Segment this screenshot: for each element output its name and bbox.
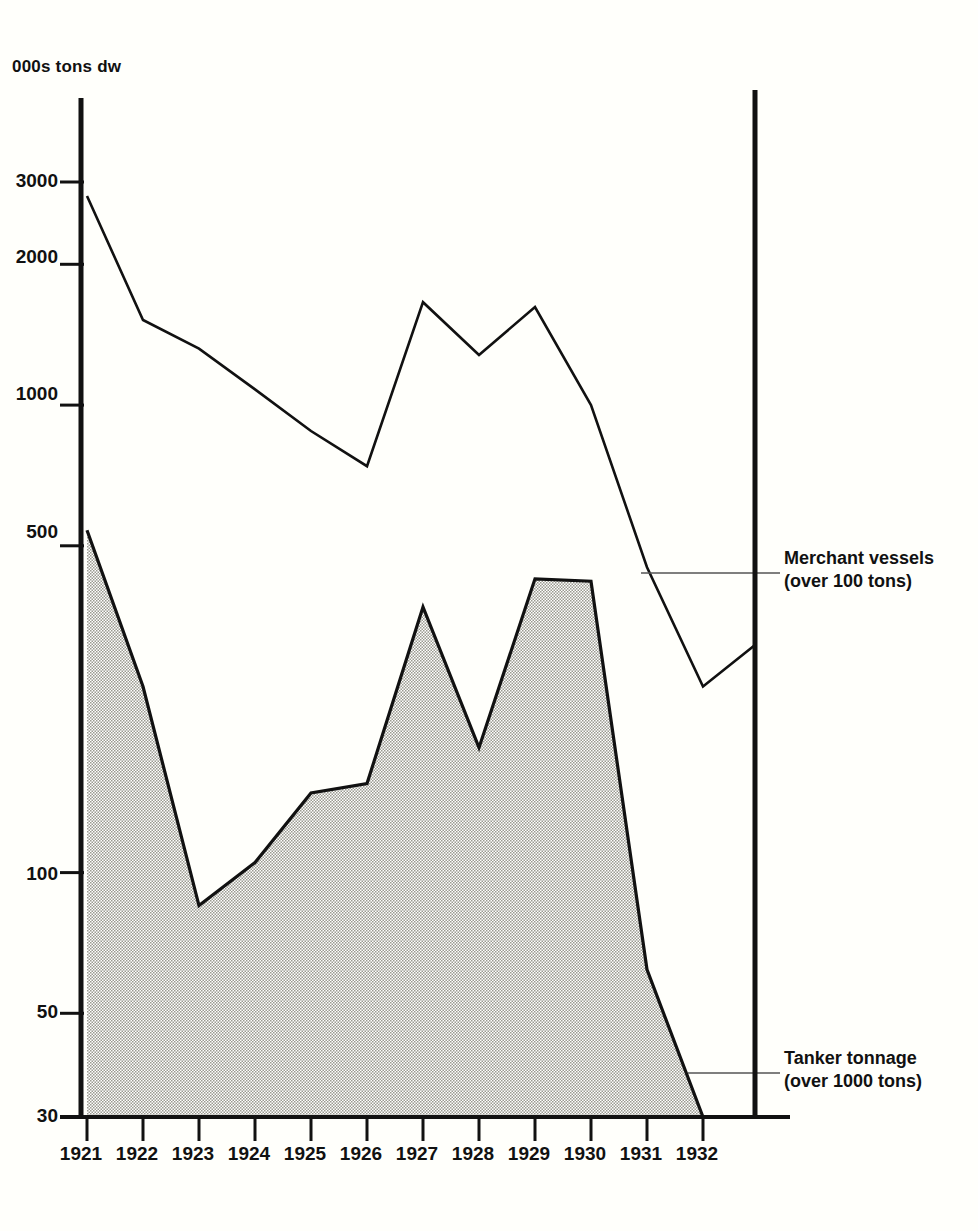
- chart-figure: 000s tons dw 3000 2000 1000 500 100 50 3…: [0, 0, 978, 1231]
- plot-canvas: [0, 0, 978, 1231]
- x-axis-ticks: [87, 1117, 703, 1141]
